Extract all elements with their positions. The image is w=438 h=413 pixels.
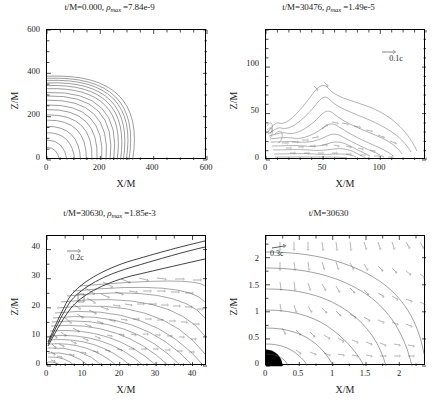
- panel-2-title: t/M=30476, ρmax =1.49e-5: [219, 2, 438, 13]
- panel-1-ytick-400: 400: [8, 66, 40, 76]
- panel-4-density-contours: [266, 252, 424, 366]
- panel-1-ytick-200: 200: [8, 109, 40, 119]
- panel-4-velocity-scale-label: 0.3c: [266, 249, 310, 258]
- panel-2-velocity-scale-label: 0.1c: [374, 54, 418, 63]
- panel-4-time-value: 30630: [326, 208, 348, 218]
- panel-2-rho-value: 1.49e-5: [348, 2, 375, 12]
- panel-1-plot-area: [46, 29, 206, 159]
- panel-3-ytick-40: 40: [8, 241, 40, 251]
- panel-1-rho-value: 7.84e-9: [128, 2, 155, 12]
- panel-1-xtick-600: 600: [192, 162, 220, 172]
- panel-4-ytick-2: 2: [227, 253, 259, 263]
- panel-1-time-label: t/M=: [64, 2, 82, 12]
- panel-2-xtick-0: 0: [251, 162, 279, 172]
- panel-4-ytick-0p5: 0.5: [227, 332, 259, 342]
- panel-4: t/M=30630 Z/M 2 1.5 1 0.5 0: [219, 206, 438, 413]
- panel-3-rho-value: 1.85e-3: [129, 208, 156, 218]
- panel-3-density-contours: [48, 281, 205, 366]
- panel-4-xtick-1p5: 1.5: [351, 368, 379, 378]
- panel-3-time-label: t/M=: [63, 208, 81, 218]
- panel-4-xtick-0p5: 0.5: [284, 368, 312, 378]
- panel-3-xtick-20: 20: [105, 368, 133, 378]
- panel-3-time-value: 30630: [81, 208, 103, 218]
- panel-2-ytick-100: 100: [227, 58, 259, 68]
- panel-4-time-label: t/M=: [309, 208, 327, 218]
- panel-4-xtick-0: 0: [251, 368, 279, 378]
- panel-1-title: t/M=0.000, ρmax =7.84e-9: [0, 2, 219, 13]
- panel-3-x-axis-title: X/M: [46, 384, 206, 395]
- panel-3-title: t/M=30630, ρmax =1.85e-3: [0, 208, 219, 219]
- panel-1-contour-svg: [47, 30, 207, 160]
- panel-3-xtick-40: 40: [178, 368, 206, 378]
- panel-3-xtick-30: 30: [141, 368, 169, 378]
- panel-4-xtick-1: 1: [318, 368, 346, 378]
- panel-3-xtick-0: 0: [32, 368, 60, 378]
- panel-2-time-value: 30476: [300, 2, 322, 12]
- panel-1-xtick-200: 200: [85, 162, 113, 172]
- panel-2-x-axis-title: X/M: [265, 178, 425, 189]
- panel-4-xtick-2: 2: [385, 368, 413, 378]
- panel-3-velocity-scale-label: 0.2c: [55, 253, 99, 262]
- panel-2: t/M=30476, ρmax =1.49e-5 Z/M 100 50 0: [219, 0, 438, 207]
- panel-3-ytick-10: 10: [8, 329, 40, 339]
- panel-4-ytick-1: 1: [227, 306, 259, 316]
- panel-2-ytick-0: 0: [227, 152, 259, 162]
- panel-1-xtick-400: 400: [138, 162, 166, 172]
- panel-1-ytick-0: 0: [8, 152, 40, 162]
- panel-2-rho-subscript: max: [331, 6, 342, 13]
- panel-2-xtick-50: 50: [308, 162, 336, 172]
- panel-2-plot-area: 0.1c: [265, 29, 425, 159]
- panel-3-plot-area: 0.2c: [46, 235, 206, 365]
- panel-3-ytick-30: 30: [8, 270, 40, 280]
- panel-3: t/M=30630, ρmax =1.85e-3 Z/M 40 30 20 10…: [0, 206, 219, 413]
- panel-3-xtick-10: 10: [68, 368, 96, 378]
- panel-1-ytick-600: 600: [8, 24, 40, 34]
- panel-1: t/M=0.000, ρmax =7.84e-9 Z/M 600 400 200…: [0, 0, 219, 207]
- panel-4-velocity-arrow: [272, 245, 286, 248]
- panel-4-title: t/M=30630: [219, 208, 438, 218]
- panel-4-x-axis-title: X/M: [265, 384, 425, 395]
- panel-3-rho-subscript: max: [112, 212, 123, 219]
- panel-4-ytick-0: 0: [227, 358, 259, 368]
- panel-3-ytick-0: 0: [8, 358, 40, 368]
- panel-3-ytick-20: 20: [8, 300, 40, 310]
- panel-4-ytick-1p5: 1.5: [227, 280, 259, 290]
- panel-1-xtick-0: 0: [32, 162, 60, 172]
- panel-1-time-value: 0.000: [82, 2, 102, 12]
- panel-1-x-axis-title: X/M: [46, 178, 206, 189]
- panel-4-plot-area: 0.3c: [265, 235, 425, 365]
- panel-2-contour-svg: [266, 30, 426, 160]
- panel-2-ytick-50: 50: [227, 105, 259, 115]
- panel-2-time-label: t/M=: [282, 2, 300, 12]
- panel-1-rho-subscript: max: [110, 6, 121, 13]
- figure-root: t/M=0.000, ρmax =7.84e-9 Z/M 600 400 200…: [0, 0, 438, 413]
- panel-2-xtick-100: 100: [365, 162, 393, 172]
